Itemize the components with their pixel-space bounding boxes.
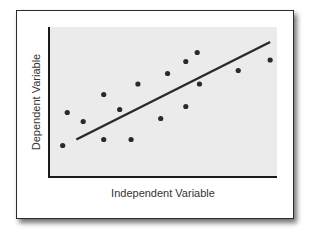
data-point [158,116,163,121]
data-point [268,57,273,62]
data-point [128,137,133,142]
data-points [60,50,273,148]
data-point [101,137,106,142]
data-point [117,107,122,112]
data-point [195,50,200,55]
data-point [183,59,188,64]
data-point [183,104,188,109]
data-point [60,143,65,148]
data-point [236,68,241,73]
data-point [65,110,70,115]
data-point [81,119,86,124]
data-point [165,71,170,76]
y-axis-label: Dependent Variable [30,54,42,150]
data-point [197,81,202,86]
x-axis-label: Independent Variable [111,187,215,199]
trend-line [76,42,270,140]
data-point [135,81,140,86]
data-point [101,92,106,97]
